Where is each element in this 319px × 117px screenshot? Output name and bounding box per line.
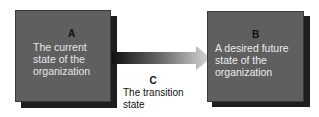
transition-text: The transition state <box>123 87 189 111</box>
transition-label: C The transition state <box>123 75 203 111</box>
transition-arrow-icon <box>112 45 212 71</box>
box-b-text: A desired future state of the organizati… <box>215 42 299 78</box>
box-b-letter: B <box>215 29 303 41</box>
box-a-current-state: A The current state of the organization <box>15 10 111 102</box>
box-b-desired-state: B A desired future state of the organiza… <box>207 11 304 102</box>
transition-letter: C <box>123 75 203 87</box>
box-a-text: The current state of the organization <box>33 41 103 77</box>
box-a-letter: A <box>33 28 110 40</box>
